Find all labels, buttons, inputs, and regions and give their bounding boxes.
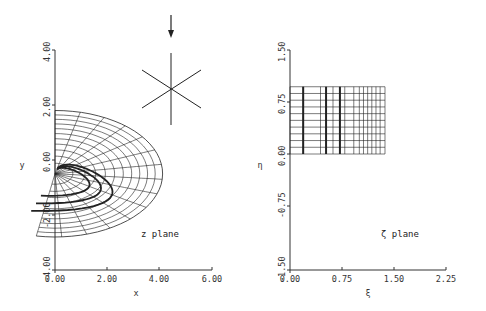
z-ytick-label: -2.00 (42, 202, 52, 228)
z-xtick-label: 6.00 (202, 274, 222, 284)
zeta-xtick-label: 2.25 (436, 274, 456, 284)
zeta-xtick-label: 0.75 (332, 274, 352, 284)
zeta-ytick-label: 0.75 (277, 94, 287, 114)
zeta-xlabel: ξ (365, 288, 370, 298)
z-ytick-label: 4.00 (42, 42, 52, 62)
z-xtick-label: 4.00 (149, 274, 169, 284)
z-ytick-label: 2.00 (42, 97, 52, 117)
star-symbol (142, 53, 201, 125)
z-ylabel: y (19, 160, 24, 170)
figure: -4.00 -2.00 0.00 2.00 4.00 0.00 2.00 4.0… (0, 0, 486, 311)
zeta-plane-label: ζ plane (381, 229, 419, 239)
zeta-plane-mesh (290, 87, 385, 154)
z-xtick-label: 2.00 (97, 274, 117, 284)
z-ytick-label: 0.00 (42, 152, 52, 172)
zeta-ytick-label: 1.50 (277, 42, 287, 62)
zeta-xtick-label: 1.50 (384, 274, 404, 284)
z-plane-label: z plane (141, 229, 179, 239)
z-xlabel: x (133, 288, 138, 298)
zeta-xtick-label: 0.00 (280, 274, 300, 284)
zeta-ytick-label: -0.75 (277, 192, 287, 218)
zeta-ytick-label: 0.00 (277, 146, 287, 166)
arrow-down-icon (168, 15, 174, 38)
z-xtick-label: 0.00 (45, 274, 65, 284)
zeta-plane-chart: -1.50 -0.75 0.00 0.75 1.50 0.00 0.75 1.5… (257, 42, 456, 298)
z-plane-chart: -4.00 -2.00 0.00 2.00 4.00 0.00 2.00 4.0… (19, 15, 222, 298)
zeta-ylabel: η (257, 160, 262, 170)
